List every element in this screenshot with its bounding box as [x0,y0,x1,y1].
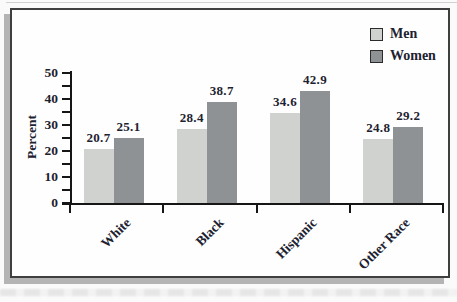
x-tick [69,205,71,213]
y-tick [62,111,70,113]
y-tick-label: 30 [28,117,58,133]
bar-men-other-race [363,139,393,203]
y-tick-label: 50 [28,65,58,81]
legend-item-women: Women [370,48,436,64]
value-label-women-black: 38.7 [192,83,252,99]
value-label-women-white: 25.1 [99,119,159,135]
legend: MenWomen [370,26,436,70]
legend-label-women: Women [390,48,436,64]
y-tick [62,85,70,87]
y-tick-label: 10 [28,169,58,185]
y-tick [62,163,70,165]
y-tick [62,189,70,191]
bar-women-black [207,102,237,203]
bar-men-black [177,129,207,203]
bar-women-other-race [393,127,423,203]
y-tick [62,176,70,178]
x-axis-line [62,203,444,205]
y-tick-label: 20 [28,143,58,159]
bar-men-white [84,149,114,203]
y-tick [62,150,70,152]
y-tick [62,72,70,74]
y-tick [62,124,70,126]
bar-women-white [114,138,144,203]
value-label-women-hispanic: 42.9 [285,72,345,88]
y-tick-label: 0 [28,195,58,211]
page-top-rule [6,2,457,3]
bar-men-hispanic [270,113,300,203]
legend-swatch-women-icon [370,50,383,63]
bar-women-hispanic [300,91,330,203]
y-tick-label: 40 [28,91,58,107]
figure-frame: Percent0102030405020.728.434.624.825.138… [10,8,450,278]
x-tick [349,205,351,213]
x-tick [442,205,444,213]
y-tick [62,98,70,100]
legend-label-men: Men [390,26,417,42]
x-tick [256,205,258,213]
legend-swatch-men-icon [370,28,383,41]
legend-item-men: Men [370,26,436,42]
value-label-women-other-race: 29.2 [378,108,438,124]
x-tick [162,205,164,213]
